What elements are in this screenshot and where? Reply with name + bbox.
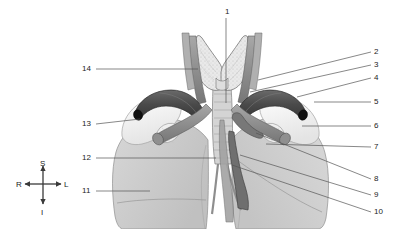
label-13: 13: [82, 120, 91, 128]
label-5: 5: [374, 98, 379, 106]
figure-canvas: 1234567891011121314 S I R L: [0, 0, 401, 229]
label-11: 11: [82, 187, 91, 195]
label-3: 3: [374, 61, 379, 69]
label-9: 9: [374, 191, 379, 199]
label-2: 2: [374, 48, 379, 56]
label-6: 6: [374, 122, 379, 130]
label-12: 12: [82, 154, 91, 162]
label-1: 1: [225, 8, 230, 16]
compass-label-superior: S: [40, 160, 45, 168]
label-14: 14: [82, 65, 91, 73]
label-8: 8: [374, 175, 379, 183]
label-10: 10: [374, 208, 383, 216]
compass-label-left: L: [64, 181, 68, 189]
label-7: 7: [374, 143, 379, 151]
compass-label-inferior: I: [41, 209, 43, 217]
compass-label-right: R: [16, 181, 22, 189]
label-4: 4: [374, 74, 379, 82]
